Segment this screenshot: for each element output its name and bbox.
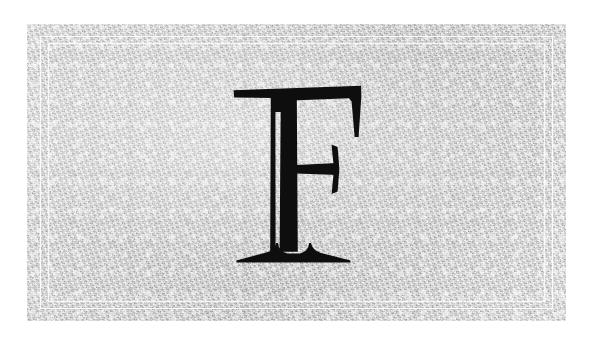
border-frame-outer: [40, 36, 553, 309]
letter-f-middle-arm-terminal: [332, 145, 340, 195]
paper-grain-layer-2: [27, 24, 566, 321]
monogram-card: [27, 24, 566, 321]
letter-f-top-arm: [234, 86, 362, 137]
border-frame-inner: [48, 43, 545, 302]
letter-f-stem-inline-bar: [270, 97, 275, 252]
canvas: [0, 0, 591, 338]
monogram-letter-f: [27, 24, 566, 321]
letter-f-stem: [280, 96, 298, 252]
paper-sheen: [27, 24, 566, 321]
paper-grain-layer-3: [27, 24, 566, 321]
paper-grain-layer-1: [27, 24, 566, 321]
paper-grain-layer-4: [27, 24, 566, 321]
letter-f-middle-arm: [297, 163, 338, 175]
letter-f-top-bracket: [274, 97, 282, 107]
letter-f-glyph: [234, 86, 362, 263]
letter-f-foot-serif: [237, 243, 351, 263]
